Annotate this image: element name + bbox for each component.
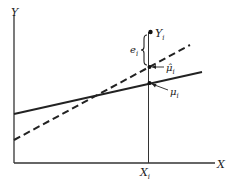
- mu-label: μi: [170, 86, 179, 100]
- fitted-point-mu-hat: [148, 65, 152, 69]
- residual-brace: [141, 35, 147, 65]
- xi-label: Xi: [139, 166, 150, 181]
- x-axis-label: X: [216, 158, 226, 171]
- observed-point-yi: [148, 30, 152, 34]
- y-axis-label: Y: [11, 6, 20, 19]
- fitted-regression-line: [14, 45, 190, 140]
- ei-label: ei: [130, 44, 138, 58]
- yi-label: Yi: [155, 27, 165, 42]
- mu-hat-label: μ̂i: [166, 62, 175, 76]
- true-point-mu: [148, 81, 152, 85]
- regression-diagram: Y X Xi Yi ei μ̂i μi: [0, 0, 234, 188]
